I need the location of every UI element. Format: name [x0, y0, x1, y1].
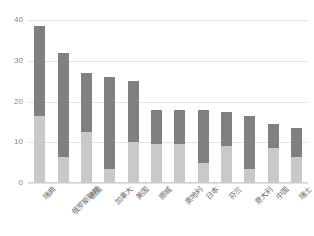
bar-segment[interactable] [81, 73, 92, 132]
x-tick-label: 挪威 [158, 186, 173, 201]
y-tick-label: 40 [14, 16, 23, 24]
x-axis-labels: 瑞典俄罗斯联邦德国加拿大美国挪威奥地利日本芬兰意大利中国瑞士 [28, 184, 308, 236]
bar-group[interactable] [58, 20, 69, 183]
bar-segment[interactable] [151, 144, 162, 183]
bar-segment[interactable] [291, 128, 302, 157]
bar-group[interactable] [128, 20, 139, 183]
y-tick-label: 30 [14, 57, 23, 65]
plot-area: 010203040 [28, 20, 308, 183]
bar-segment[interactable] [58, 157, 69, 183]
x-tick-label: 加拿大 [114, 186, 134, 206]
bar-segment[interactable] [128, 81, 139, 142]
bar-segment[interactable] [128, 142, 139, 183]
bar-group[interactable] [34, 20, 45, 183]
x-tick-label: 意大利 [254, 186, 274, 206]
bar-segment[interactable] [198, 110, 209, 163]
bars-layer [28, 20, 308, 183]
x-tick-label: 日本 [205, 186, 220, 201]
bar-group[interactable] [244, 20, 255, 183]
bar-group[interactable] [268, 20, 279, 183]
bar-segment[interactable] [58, 53, 69, 157]
bar-segment[interactable] [221, 146, 232, 183]
bar-segment[interactable] [81, 132, 92, 183]
bar-segment[interactable] [268, 148, 279, 183]
bar-segment[interactable] [174, 144, 185, 183]
bar-group[interactable] [221, 20, 232, 183]
x-tick-label: 中国 [275, 186, 290, 201]
bar-segment[interactable] [34, 26, 45, 116]
bar-group[interactable] [151, 20, 162, 183]
bar-segment[interactable] [198, 163, 209, 183]
bar-segment[interactable] [268, 124, 279, 148]
bar-segment[interactable] [244, 116, 255, 169]
bar-segment[interactable] [34, 116, 45, 183]
y-tick-label: 20 [14, 98, 23, 106]
x-tick-label: 瑞士 [298, 186, 313, 201]
y-tick-label: 10 [14, 138, 23, 146]
bar-segment[interactable] [104, 169, 115, 183]
bar-segment[interactable] [174, 110, 185, 145]
bar-segment[interactable] [244, 169, 255, 183]
y-tick-label: 0 [19, 179, 23, 187]
x-tick-label: 瑞典 [42, 186, 57, 201]
bar-group[interactable] [174, 20, 185, 183]
bar-group[interactable] [81, 20, 92, 183]
bar-group[interactable] [291, 20, 302, 183]
bar-segment[interactable] [221, 112, 232, 147]
x-tick-label: 芬兰 [228, 186, 243, 201]
bar-segment[interactable] [291, 157, 302, 183]
x-tick-label: 美国 [135, 186, 150, 201]
x-tick-label: 奥地利 [184, 186, 204, 206]
bar-segment[interactable] [104, 77, 115, 169]
bar-chart: 010203040 瑞典俄罗斯联邦德国加拿大美国挪威奥地利日本芬兰意大利中国瑞士 [0, 0, 314, 236]
bar-group[interactable] [198, 20, 209, 183]
bar-group[interactable] [104, 20, 115, 183]
bar-segment[interactable] [151, 110, 162, 145]
